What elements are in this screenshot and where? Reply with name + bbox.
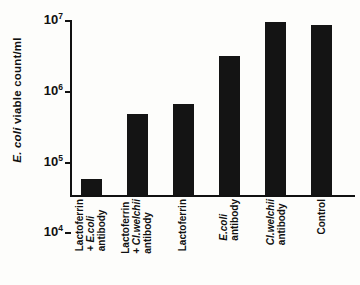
- x-category-label-text: Lactoferrin: [178, 199, 189, 251]
- tick-exponent: 5: [58, 153, 63, 163]
- x-category-label: E.coliantibody: [206, 199, 252, 283]
- x-axis-line: [70, 195, 355, 197]
- tick-mantissa: 10: [44, 225, 58, 240]
- y-axis-title-rest: viable count/ml: [11, 37, 23, 127]
- y-tick-label: 107: [44, 13, 63, 26]
- tick-mark: [65, 20, 71, 22]
- x-category-line: Lactoferrin: [178, 199, 189, 251]
- bar-lactoferrin: [173, 104, 194, 195]
- x-category-label-text: E.coliantibody: [218, 199, 240, 241]
- x-category-line: Cl.welchii: [264, 199, 275, 245]
- y-axis-title-italic: E. coli: [11, 127, 23, 162]
- x-category-line: Lactoferrin: [74, 199, 85, 251]
- tick-exponent: 6: [58, 82, 63, 92]
- tick-mantissa: 10: [44, 154, 58, 169]
- y-axis-title: E. coli viable count/ml: [2, 0, 32, 200]
- bar-control: [311, 25, 332, 194]
- y-tick-label: 105: [44, 155, 63, 168]
- y-axis-line: [70, 20, 72, 197]
- tick-exponent: 4: [58, 223, 63, 233]
- x-category-label-text: Control: [316, 199, 327, 235]
- x-category-label-text: Lactoferrin+ Cl.welchiiantibody: [120, 199, 154, 254]
- x-category-label-text: Lactoferrin+ E.coliantibody: [74, 199, 108, 251]
- tick-mantissa: 10: [44, 12, 58, 27]
- tick-mark: [65, 91, 71, 93]
- x-category-line: + Cl.welchii: [132, 199, 143, 254]
- plot-area: 107 106 105 104 103: [70, 20, 355, 197]
- y-tick-label: 106: [44, 84, 63, 97]
- tick-exponent: 7: [58, 11, 63, 21]
- bar-lactoferrin-ecoli-antibody: [81, 179, 102, 195]
- x-category-label-text: Cl.welchiiantibody: [264, 199, 286, 245]
- x-category-line: Control: [316, 199, 327, 235]
- x-category-label: Lactoferrin+ Cl.welchiiantibody: [114, 199, 160, 283]
- y-axis-title-text: E. coli viable count/ml: [11, 37, 23, 162]
- x-category-line: antibody: [143, 199, 154, 254]
- y-tick-label: 104: [44, 226, 63, 239]
- x-category-line: E.coli: [218, 199, 229, 241]
- bar-ecoli-antibody: [219, 56, 240, 195]
- x-category-line: Lactoferrin: [120, 199, 131, 254]
- chart-figure: E. coli viable count/ml 107 106 105 104 …: [0, 0, 360, 285]
- x-category-label: Lactoferrin+ E.coliantibody: [68, 199, 114, 283]
- bar-lactoferrin-clwelchii-antibody: [127, 114, 148, 195]
- x-category-line: + E.coli: [85, 199, 96, 251]
- x-category-label: Cl.welchiiantibody: [253, 199, 299, 283]
- tick-mantissa: 10: [44, 83, 58, 98]
- bar-clwelchii-antibody: [265, 22, 286, 195]
- x-category-line: antibody: [229, 199, 240, 241]
- x-category-line: antibody: [97, 199, 108, 251]
- x-category-label: Lactoferrin: [160, 199, 206, 283]
- x-axis-category-labels: Lactoferrin+ E.coliantibody Lactoferrin+…: [70, 199, 355, 285]
- tick-mark: [65, 162, 71, 164]
- x-category-label: Control: [299, 199, 345, 283]
- x-category-line: antibody: [276, 199, 287, 245]
